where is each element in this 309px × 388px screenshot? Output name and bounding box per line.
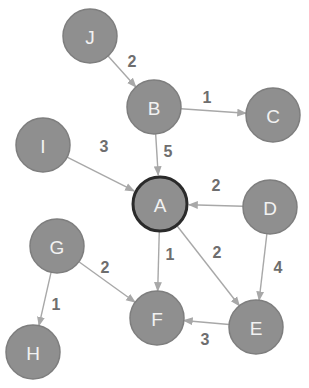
edge-d-to-e (259, 234, 267, 300)
edge-weight-label: 3 (201, 331, 210, 348)
edge-e-to-f (184, 320, 229, 324)
edge-weight-label: 2 (213, 244, 222, 261)
node-label: I (40, 136, 45, 157)
edge-d-to-a (189, 205, 243, 206)
node-i[interactable]: I (16, 118, 70, 172)
node-e[interactable]: E (229, 300, 283, 354)
edge-g-to-h (39, 272, 51, 325)
node-g[interactable]: G (30, 219, 84, 273)
node-h[interactable]: H (6, 325, 60, 379)
edge-weight-label: 2 (128, 53, 137, 70)
node-b[interactable]: B (127, 80, 181, 134)
edge-weight-label: 5 (164, 143, 173, 160)
edge-weight-label: 1 (52, 296, 61, 313)
node-label: D (263, 198, 277, 219)
node-label: J (85, 27, 95, 48)
node-label: C (266, 106, 280, 127)
node-label: A (154, 195, 167, 216)
edge-b-to-c (181, 109, 246, 113)
graph-canvas: 21532124213 JBCIADGFEH (0, 0, 309, 388)
node-c[interactable]: C (246, 88, 300, 142)
edge-i-to-a (67, 157, 134, 191)
node-j[interactable]: J (63, 9, 117, 63)
node-label: B (148, 98, 161, 119)
node-a[interactable]: A (133, 177, 187, 231)
node-label: G (50, 237, 65, 258)
edge-weight-label: 2 (212, 177, 221, 194)
edge-weight-label: 3 (100, 138, 109, 155)
node-label: F (151, 309, 163, 330)
node-label: E (250, 318, 263, 339)
node-f[interactable]: F (130, 291, 184, 345)
edge-b-to-a (156, 134, 159, 175)
edge-weight-label: 1 (166, 246, 175, 263)
node-label: H (26, 343, 40, 364)
nodes-layer: JBCIADGFEH (6, 9, 300, 379)
edge-a-to-e (177, 225, 240, 305)
edge-a-to-f (158, 231, 160, 291)
edge-weight-label: 2 (101, 259, 110, 276)
edge-weight-label: 4 (274, 259, 283, 276)
node-d[interactable]: D (243, 180, 297, 234)
edge-weight-label: 1 (203, 89, 212, 106)
